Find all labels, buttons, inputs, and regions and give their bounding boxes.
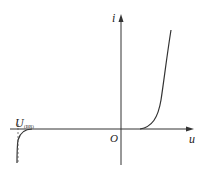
origin-label: O — [110, 132, 118, 144]
x-axis-label: u — [189, 132, 195, 146]
breakdown-voltage-subscript: (BR) — [24, 124, 34, 129]
forward-characteristic-curve — [140, 30, 171, 129]
y-axis-label: i — [112, 11, 115, 25]
y-axis-arrow-icon — [119, 14, 124, 22]
reverse-breakdown-curve — [17, 129, 32, 163]
diode-iv-diagram: i u O U (BR) — [0, 0, 204, 175]
x-axis-arrow-icon — [186, 127, 194, 132]
